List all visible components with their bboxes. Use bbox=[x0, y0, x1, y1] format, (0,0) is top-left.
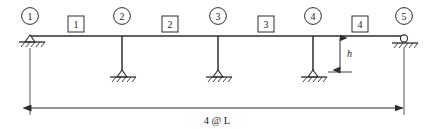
height-dim-label: h bbox=[347, 48, 352, 59]
member-label-2: 2 bbox=[168, 19, 173, 30]
member-label-4: 4 bbox=[358, 19, 363, 30]
node-marker-3: 3 bbox=[210, 8, 227, 25]
node-marker-1: 1 bbox=[22, 8, 39, 25]
member-marker-4: 4 bbox=[352, 16, 368, 32]
span-dimension: 4 @ L bbox=[30, 48, 404, 126]
diagram-canvas: 1 2 3 4 5 1 2 3 bbox=[0, 0, 427, 129]
support-pin-base-node-2 bbox=[110, 70, 136, 82]
structural-frame-diagram: 1 2 3 4 5 1 2 3 bbox=[0, 0, 427, 129]
member-marker-1: 1 bbox=[68, 16, 84, 32]
node-label-3: 3 bbox=[216, 11, 221, 22]
member-marker-3: 3 bbox=[258, 16, 274, 32]
support-roller-node-5 bbox=[392, 35, 418, 48]
node-label-4: 4 bbox=[311, 11, 316, 22]
node-label-1: 1 bbox=[28, 11, 33, 22]
member-marker-2: 2 bbox=[162, 16, 178, 32]
node-label-2: 2 bbox=[120, 11, 125, 22]
support-pin-base-node-3 bbox=[206, 70, 232, 82]
support-pin-base-node-4 bbox=[301, 70, 327, 82]
node-marker-2: 2 bbox=[114, 8, 131, 25]
span-dim-label: 4 @ L bbox=[204, 115, 231, 126]
node-marker-4: 4 bbox=[305, 8, 322, 25]
height-dimension: h bbox=[328, 38, 352, 72]
node-marker-5: 5 bbox=[396, 8, 413, 25]
member-label-1: 1 bbox=[74, 19, 79, 30]
member-label-3: 3 bbox=[264, 19, 269, 30]
node-label-5: 5 bbox=[402, 11, 407, 22]
